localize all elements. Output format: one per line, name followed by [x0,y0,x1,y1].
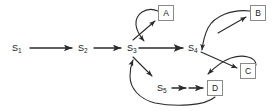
edge-s3-s5 [133,57,152,76]
node-s2: S2 [78,44,88,53]
diagram-canvas: S1 S2 S3 S4 S5 A B C D [0,0,274,111]
edge-b-s4-feedback [202,11,250,50]
node-s5: S5 [157,84,167,93]
node-box-b: B [250,5,266,21]
edge-s4-b [218,17,246,33]
node-box-d: D [207,80,223,96]
node-s4: S4 [188,44,198,53]
node-s3: S3 [127,44,137,53]
node-box-a: A [158,5,174,21]
edge-a-s3-feedback [136,9,158,41]
edge-s4-c [201,52,237,68]
node-s1: S1 [12,44,22,53]
diagram-edges-layer [0,0,274,111]
node-box-c: C [240,63,256,79]
